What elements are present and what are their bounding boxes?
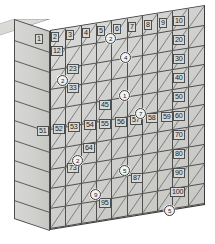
grid-cell: [189, 125, 204, 147]
cell-diagonal-icon: [128, 155, 142, 176]
grid-cell: [173, 127, 188, 149]
grid-cell: [112, 38, 127, 60]
cell-diagonal-icon: [82, 83, 96, 104]
cell-diagonal-icon: [189, 65, 204, 86]
grid-cell: [128, 56, 143, 78]
cell-diagonal-icon: [158, 90, 172, 111]
cell-diagonal-icon: [158, 71, 172, 92]
grid-cell: [189, 105, 204, 127]
cell-diagonal-icon: [97, 179, 111, 200]
side-band: [15, 80, 49, 92]
block-side-face: [14, 19, 50, 231]
grid-cell: [189, 145, 204, 167]
cell-diagonal-icon: [66, 105, 80, 126]
grid-cell: [66, 125, 81, 147]
grid-cell: [82, 162, 97, 184]
cell-diagonal-icon: [51, 108, 65, 129]
hundred-square-figure: 1234567891020304050607080901005152535455…: [0, 0, 215, 244]
grid-cell: [112, 58, 127, 80]
grid-cell: [97, 120, 112, 142]
cell-diagonal-icon: [51, 48, 65, 69]
grid-cell: [189, 184, 204, 206]
cell-diagonal-icon: [189, 85, 204, 106]
side-band: [15, 100, 49, 112]
cell-diagonal-icon: [158, 51, 172, 72]
grid-cell: [112, 157, 127, 179]
grid-cell: [51, 88, 66, 110]
cell-diagonal-icon: [97, 160, 111, 181]
isometric-block: [0, 0, 215, 244]
cell-diagonal-icon: [173, 147, 187, 168]
cell-diagonal-icon: [173, 187, 187, 208]
grid-cell: [173, 28, 188, 50]
cell-diagonal-icon: [189, 125, 204, 146]
cell-diagonal-icon: [66, 204, 80, 225]
grid-cell: [143, 172, 158, 194]
cell-diagonal-icon: [97, 61, 111, 82]
grid-cell: [173, 108, 188, 130]
grid-cell: [173, 88, 188, 110]
grid-cell: [189, 26, 204, 48]
cell-diagonal-icon: [112, 38, 126, 59]
cell-diagonal-icon: [173, 127, 187, 148]
grid-cell: [97, 160, 112, 182]
cell-diagonal-icon: [143, 172, 157, 193]
cell-diagonal-icon: [51, 207, 65, 228]
grid-cell: [112, 18, 127, 40]
cell-diagonal-icon: [112, 78, 126, 99]
grid-cell: [143, 33, 158, 55]
cell-diagonal-icon: [173, 108, 187, 129]
cell-diagonal-icon: [143, 93, 157, 114]
grid-cell: [128, 135, 143, 157]
cell-diagonal-icon: [158, 189, 172, 210]
side-band: [15, 60, 49, 72]
grid-cell: [51, 28, 66, 50]
cell-diagonal-icon: [189, 105, 204, 126]
cell-diagonal-icon: [51, 167, 65, 188]
cell-diagonal-icon: [51, 147, 65, 168]
grid-cell: [128, 36, 143, 58]
cell-diagonal-icon: [97, 120, 111, 141]
cell-diagonal-icon: [82, 43, 96, 64]
side-band: [15, 160, 49, 172]
grid-cell: [66, 65, 81, 87]
grid-cell: [173, 9, 188, 31]
side-band: [15, 140, 49, 152]
grid-cell: [143, 73, 158, 95]
grid-cell: [189, 46, 204, 68]
cell-diagonal-icon: [128, 95, 142, 116]
grid-cell: [97, 100, 112, 122]
cell-diagonal-icon: [143, 132, 157, 153]
grid-cell: [158, 31, 173, 53]
cell-diagonal-icon: [128, 36, 142, 57]
grid-cell: [189, 164, 204, 186]
grid-cell: [128, 75, 143, 97]
cell-diagonal-icon: [82, 63, 96, 84]
grid-cell: [173, 167, 188, 189]
cell-diagonal-icon: [143, 14, 157, 35]
cell-diagonal-icon: [66, 66, 80, 87]
cell-diagonal-icon: [66, 125, 80, 146]
cell-diagonal-icon: [82, 123, 96, 144]
grid-cell: [97, 140, 112, 162]
cell-diagonal-icon: [51, 187, 65, 208]
cell-diagonal-icon: [173, 68, 187, 89]
cell-diagonal-icon: [189, 164, 204, 185]
grid-cell: [158, 189, 173, 211]
cell-diagonal-icon: [66, 26, 80, 47]
cell-diagonal-icon: [97, 21, 111, 42]
grid-cell: [112, 197, 127, 219]
cell-diagonal-icon: [51, 68, 65, 89]
cell-diagonal-icon: [143, 113, 157, 134]
grid-cell: [143, 112, 158, 134]
cell-diagonal-icon: [51, 128, 65, 149]
grid-cell: [82, 63, 97, 85]
cell-diagonal-icon: [158, 11, 172, 32]
grid-cell: [158, 169, 173, 191]
grid-cell: [112, 78, 127, 100]
grid-cell: [82, 103, 97, 125]
grid-cell: [82, 142, 97, 164]
grid-cell: [173, 147, 188, 169]
cell-diagonal-icon: [189, 184, 204, 205]
cell-diagonal-icon: [82, 162, 96, 183]
